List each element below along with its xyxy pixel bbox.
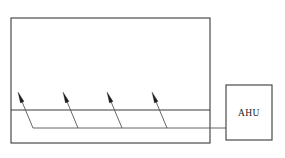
supply-air-arrowhead-1 xyxy=(18,92,24,103)
room-outline-group xyxy=(11,18,210,143)
branch-duct-line-1 xyxy=(22,102,33,128)
hvac-schematic-diagram: AHU xyxy=(0,0,285,158)
branch-duct-line-4 xyxy=(156,102,167,128)
ahu-unit-group: AHU xyxy=(226,85,272,140)
schematic-canvas: AHU xyxy=(0,0,285,158)
branch-duct-line-2 xyxy=(67,102,78,128)
branch-duct-line-3 xyxy=(111,102,122,128)
supply-air-arrowhead-2 xyxy=(63,92,69,103)
supply-air-arrowhead-4 xyxy=(152,92,158,103)
supply-air-arrowhead-3 xyxy=(107,92,113,103)
conditioned-space-outline xyxy=(11,18,210,143)
ahu-label: AHU xyxy=(238,108,260,118)
